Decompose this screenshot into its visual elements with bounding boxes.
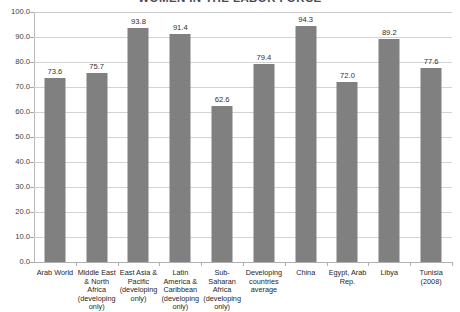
y-axis-tick-label: 80.0	[2, 58, 30, 66]
y-axis-tick-mark	[30, 162, 34, 163]
y-axis-tick-mark	[30, 137, 34, 138]
x-axis-tick-mark	[368, 262, 369, 266]
y-axis-tick-label: 10.0	[2, 233, 30, 241]
bar-slot: 77.6	[410, 12, 452, 262]
bar-slot: 94.3	[285, 12, 327, 262]
bar-value-label: 62.6	[215, 95, 230, 104]
y-axis-tick-label: 30.0	[2, 183, 30, 191]
bar[interactable]	[421, 68, 442, 262]
y-axis-tick-mark	[30, 187, 34, 188]
bar-slot: 79.4	[243, 12, 285, 262]
y-axis-tick-label: 20.0	[2, 208, 30, 216]
x-axis-tick-mark	[243, 262, 244, 266]
bar-slot: 62.6	[201, 12, 243, 262]
x-axis-category-label: Developing countries average	[243, 269, 285, 295]
bar-value-label: 89.2	[382, 28, 397, 37]
bar-value-label: 72.0	[340, 71, 355, 80]
bar[interactable]	[295, 26, 316, 262]
x-axis-category-label: Middle East & North Africa (developing o…	[76, 269, 118, 312]
bar-value-label: 73.6	[48, 67, 63, 76]
x-axis-category-label: Libya	[368, 269, 410, 278]
bar-value-label: 77.6	[424, 57, 439, 66]
y-axis-tick-mark	[30, 12, 34, 13]
x-axis-category-label: Tunisia (2008)	[410, 269, 452, 286]
y-axis-tick-label: 50.0	[2, 133, 30, 141]
bar[interactable]	[379, 39, 400, 262]
bar-value-label: 91.4	[173, 23, 188, 32]
x-axis-category-label: Latin America & Caribbean (developing on…	[159, 269, 201, 312]
x-axis-tick-mark	[410, 262, 411, 266]
bar-slot: 89.2	[368, 12, 410, 262]
chart-title: WOMEN IN THE LABOR FORCE	[0, 0, 460, 5]
y-axis-tick-mark	[30, 262, 34, 263]
y-axis-labels: 100.090.080.070.060.050.040.030.020.010.…	[0, 0, 30, 309]
bar-value-label: 75.7	[89, 62, 104, 71]
x-axis-tick-mark	[285, 262, 286, 266]
x-axis-category-label: Arab World	[34, 269, 76, 278]
x-axis-tick-mark	[159, 262, 160, 266]
bar-value-label: 79.4	[257, 53, 272, 62]
x-axis-tick-mark	[327, 262, 328, 266]
bar-slot: 93.8	[118, 12, 160, 262]
bar-value-label: 93.8	[131, 17, 146, 26]
bar[interactable]	[212, 106, 233, 263]
bar-slot: 91.4	[159, 12, 201, 262]
bar-slot: 73.6	[34, 12, 76, 262]
y-axis-tick-label: 100.0	[2, 8, 30, 16]
bar[interactable]	[128, 28, 149, 263]
bar[interactable]	[253, 64, 274, 263]
x-axis-tick-mark	[118, 262, 119, 266]
bar[interactable]	[86, 73, 107, 262]
bar-slot: 75.7	[76, 12, 118, 262]
y-axis-tick-label: 0.0	[2, 258, 30, 266]
x-axis-tick-mark	[201, 262, 202, 266]
y-axis-tick-mark	[30, 87, 34, 88]
y-axis-tick-label: 40.0	[2, 158, 30, 166]
x-axis-tick-mark	[452, 262, 453, 266]
bar-value-label: 94.3	[298, 15, 313, 24]
bar[interactable]	[337, 82, 358, 262]
y-axis-tick-mark	[30, 237, 34, 238]
y-axis-tick-label: 70.0	[2, 83, 30, 91]
x-axis-category-label: East Asia & Pacific (developing only)	[118, 269, 160, 303]
y-axis-tick-label: 60.0	[2, 108, 30, 116]
x-axis-tick-mark	[76, 262, 77, 266]
x-axis-category-label: China	[285, 269, 327, 278]
x-axis-category-label: Sub-Saharan Africa (developing only)	[201, 269, 243, 312]
x-axis-labels: Arab WorldMiddle East & North Africa (de…	[34, 269, 452, 309]
y-axis-tick-mark	[30, 37, 34, 38]
x-axis-category-label: Egypt, Arab Rep.	[327, 269, 369, 286]
plot-area: 73.675.793.891.462.679.494.372.089.277.6	[34, 12, 452, 262]
y-axis-tick-mark	[30, 212, 34, 213]
y-axis-tick-label: 90.0	[2, 33, 30, 41]
y-axis-tick-mark	[30, 112, 34, 113]
bar[interactable]	[44, 78, 65, 262]
bar-slot: 72.0	[327, 12, 369, 262]
bar[interactable]	[170, 34, 191, 263]
y-axis-tick-mark	[30, 62, 34, 63]
